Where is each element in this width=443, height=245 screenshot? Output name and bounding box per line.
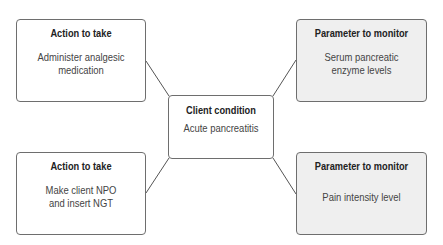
- body-line: Pain intensity level: [303, 191, 419, 204]
- box-title: Client condition: [175, 104, 267, 116]
- connector-bottom-right: [273, 158, 296, 194]
- body-line: Administer analgesic: [23, 51, 138, 64]
- box-body: Acute pancreatitis: [174, 122, 268, 135]
- box-title: Parameter to monitor: [305, 27, 419, 39]
- body-line: Serum pancreatic: [303, 51, 419, 64]
- body-line: medication: [23, 64, 138, 77]
- box-title: Parameter to monitor: [305, 160, 419, 172]
- action-box-analgesic: Action to take Administer analgesic medi…: [16, 19, 146, 102]
- action-box-npo: Action to take Make client NPO and inser…: [16, 152, 146, 235]
- client-condition-box: Client condition Acute pancreatitis: [168, 95, 274, 159]
- box-title: Action to take: [25, 160, 138, 172]
- body-line: enzyme levels: [303, 64, 419, 77]
- body-line: and insert NGT: [23, 197, 138, 210]
- box-body: Serum pancreatic enzyme levels: [303, 51, 419, 77]
- box-body: Administer analgesic medication: [23, 51, 138, 77]
- body-line: Make client NPO: [23, 184, 138, 197]
- connector-top-right: [273, 60, 296, 96]
- monitor-box-pain: Parameter to monitor Pain intensity leve…: [296, 152, 427, 235]
- connector-bottom-left: [146, 158, 169, 193]
- connector-top-left: [146, 61, 169, 96]
- monitor-box-enzymes: Parameter to monitor Serum pancreatic en…: [296, 19, 427, 102]
- box-body: Make client NPO and insert NGT: [23, 184, 138, 210]
- box-title: Action to take: [25, 27, 138, 39]
- box-body: Pain intensity level: [303, 191, 419, 204]
